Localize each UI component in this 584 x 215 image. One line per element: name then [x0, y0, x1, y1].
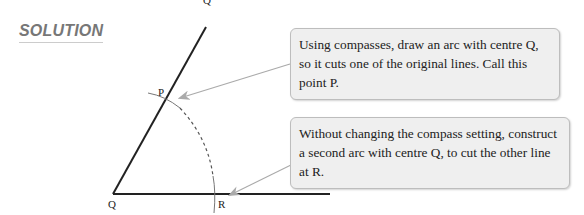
label-p: P — [158, 86, 164, 98]
arrow-to-r — [230, 163, 295, 195]
arrow-to-p — [180, 64, 290, 98]
label-r: R — [218, 198, 225, 210]
label-q: Q — [108, 198, 116, 210]
line-qp — [113, 27, 206, 194]
callout-step-2: Without changing the compass setting, co… — [290, 117, 570, 189]
callout-step-1: Using compasses, draw an arc with centre… — [290, 28, 560, 100]
arc-dashed — [180, 108, 213, 176]
label-top-q: Q — [203, 0, 211, 6]
